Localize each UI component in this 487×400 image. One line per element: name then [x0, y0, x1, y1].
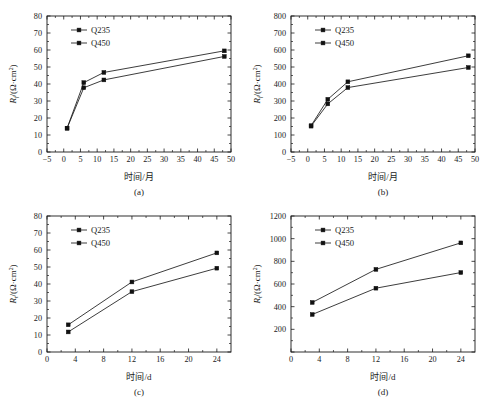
data-point-marker [310, 313, 314, 317]
chart-panel-a: −50510152025303540455001020304050607080Q… [0, 0, 243, 200]
x-tick-label: 0 [289, 355, 293, 364]
y-tick-label: 1000 [270, 235, 286, 244]
x-tick-label: 35 [421, 155, 429, 164]
x-tick-label: 10 [337, 155, 345, 164]
legend-label: Q450 [91, 38, 110, 48]
data-point-marker [130, 290, 134, 294]
x-tick-label: −5 [287, 155, 296, 164]
data-point-marker [82, 81, 86, 85]
x-tick-label: 15 [354, 155, 362, 164]
legend-entry-Q235: Q235 [315, 25, 354, 35]
y-axis-c: 01020304050607080 [34, 212, 231, 357]
y-tick-label: 30 [34, 297, 42, 306]
y-tick-label: 50 [34, 263, 42, 272]
series-Q450 [310, 271, 462, 317]
y-tick-label: 20 [34, 114, 42, 123]
x-tick-label: 45 [454, 155, 462, 164]
x-tick-label: 30 [404, 155, 412, 164]
legend-label: Q235 [335, 225, 354, 235]
x-tick-label: 40 [193, 155, 201, 164]
plot-frame-d [291, 216, 475, 352]
x-tick-label: 5 [78, 155, 82, 164]
x-tick-label: 24 [213, 355, 221, 364]
y-tick-label: 400 [274, 80, 286, 89]
legend-entry-Q450: Q450 [315, 238, 354, 248]
y-tick-label: 10 [34, 131, 42, 140]
panel-caption: (c) [134, 387, 144, 397]
x-tick-label: 0 [45, 355, 49, 364]
y-tick-label: 60 [34, 46, 42, 55]
data-point-marker [222, 49, 226, 53]
data-point-marker [326, 102, 330, 106]
y-tick-label: 800 [274, 12, 286, 21]
data-point-marker [82, 86, 86, 90]
panel-caption: (a) [134, 187, 144, 197]
y-tick-label: 0 [38, 348, 42, 357]
data-point-marker [459, 271, 463, 275]
legend-entry-Q450: Q450 [71, 238, 110, 248]
svg-text:Rf/(Ω·cm2): Rf/(Ω·cm2) [252, 64, 263, 104]
y-tick-label: 200 [274, 325, 286, 334]
x-axis-b: −505101520253035404550 [287, 16, 479, 164]
x-axis-a: −505101520253035404550 [43, 16, 235, 164]
data-point-marker [459, 241, 463, 245]
x-tick-label: 8 [346, 355, 350, 364]
x-tick-label: 5 [322, 155, 326, 164]
x-tick-label: 15 [110, 155, 118, 164]
x-tick-label: 12 [128, 355, 136, 364]
legend-entry-Q450: Q450 [315, 38, 354, 48]
svg-text:Rt/(Ω·cm2): Rt/(Ω·cm2) [8, 264, 19, 304]
chart-svg-a: −50510152025303540455001020304050607080Q… [0, 0, 243, 200]
x-tick-label: 24 [457, 355, 465, 364]
data-point-marker [66, 330, 70, 334]
y-axis-title: Rt/(Ω·cm2) [252, 264, 263, 304]
data-point-marker [65, 126, 69, 130]
legend-label: Q450 [335, 38, 354, 48]
x-tick-label: 16 [156, 355, 164, 364]
y-tick-label: 0 [38, 148, 42, 157]
x-tick-label: 8 [102, 355, 106, 364]
x-tick-label: 20 [127, 155, 135, 164]
figure-root: −50510152025303540455001020304050607080Q… [0, 0, 487, 400]
x-tick-label: 0 [306, 155, 310, 164]
legend-label: Q450 [91, 238, 110, 248]
y-tick-label: 200 [274, 114, 286, 123]
y-axis-title: Rf/(Ω·cm2) [252, 64, 263, 104]
svg-text:Rt/(Ω·cm2): Rt/(Ω·cm2) [252, 264, 263, 304]
x-tick-label: 10 [93, 155, 101, 164]
data-point-marker [326, 97, 330, 101]
data-point-marker [66, 323, 70, 327]
y-tick-label: 70 [34, 229, 42, 238]
x-tick-label: 20 [184, 355, 192, 364]
y-tick-label: 50 [34, 63, 42, 72]
chart-panel-c: 0481216202401020304050607080Q235Q450时间/d… [0, 200, 243, 400]
y-tick-label: 700 [274, 29, 286, 38]
y-axis-title: Rf/(Ω·cm2) [8, 64, 19, 104]
x-axis-title: 时间/d [370, 371, 396, 382]
data-point-marker [466, 66, 470, 70]
data-point-marker [102, 78, 106, 82]
x-tick-label: 50 [227, 155, 235, 164]
data-point-marker [309, 124, 313, 128]
legend-label: Q235 [91, 25, 110, 35]
y-tick-label: 30 [34, 97, 42, 106]
y-tick-label: 0 [282, 148, 286, 157]
y-tick-label: 800 [274, 257, 286, 266]
chart-panel-d: 0481216202420040060080010001200Q235Q450时… [244, 200, 487, 400]
data-point-marker [310, 301, 314, 305]
y-tick-label: 20 [34, 314, 42, 323]
legend-label: Q235 [91, 225, 110, 235]
chart-panel-b: −505101520253035404550010020030040050060… [244, 0, 487, 200]
legend-entry-Q450: Q450 [71, 38, 110, 48]
y-tick-label: 80 [34, 212, 42, 221]
y-axis-a: 01020304050607080 [34, 12, 231, 157]
x-tick-label: −5 [43, 155, 52, 164]
y-tick-label: 400 [274, 303, 286, 312]
x-tick-label: 12 [372, 355, 380, 364]
y-tick-label: 40 [34, 80, 42, 89]
x-axis-title: 时间/d [126, 371, 152, 382]
y-tick-label: 600 [274, 46, 286, 55]
x-tick-label: 0 [62, 155, 66, 164]
y-axis-title: Rt/(Ω·cm2) [8, 264, 19, 304]
data-point-marker [466, 54, 470, 58]
